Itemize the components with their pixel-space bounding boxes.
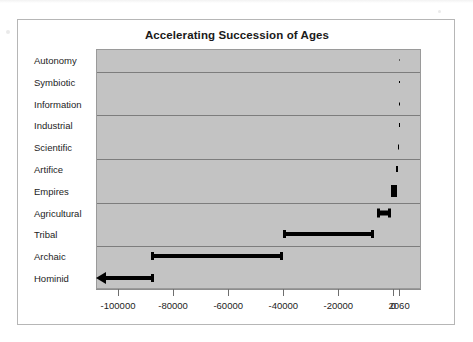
x-axis-tick xyxy=(118,289,119,296)
x-axis-tick xyxy=(283,289,284,296)
category-label: Tribal xyxy=(18,229,90,240)
gridline xyxy=(97,115,420,116)
category-label: Information xyxy=(18,98,90,109)
x-axis-tick xyxy=(393,289,394,296)
category-label: Empires xyxy=(18,185,90,196)
category-label: Archaic xyxy=(18,251,90,262)
bar-span xyxy=(399,59,400,60)
gridline xyxy=(97,203,420,204)
bar-arrowhead-icon xyxy=(96,272,106,284)
bar-cap-end xyxy=(371,230,374,238)
x-axis-tick xyxy=(399,289,400,296)
chart-frame: Accelerating Succession of Ages Autonomy… xyxy=(17,19,455,325)
bar-span xyxy=(106,276,154,280)
category-label: Symbiotic xyxy=(18,76,90,87)
bar-cap-end xyxy=(151,274,154,282)
bar-span xyxy=(398,145,399,150)
gridline xyxy=(97,72,420,73)
bar-cap-end xyxy=(388,208,391,217)
bar-cap-start xyxy=(151,252,154,260)
bar-span xyxy=(399,123,400,127)
category-axis: AutonomySymbioticInformationIndustrialSc… xyxy=(18,49,94,289)
x-axis-tick-label: -60000 xyxy=(213,300,243,311)
bar-cap-start xyxy=(283,230,286,238)
bar-span xyxy=(396,166,398,172)
x-axis-tick xyxy=(173,289,174,296)
category-label: Autonomy xyxy=(18,54,90,65)
category-label: Industrial xyxy=(18,120,90,131)
bar-span xyxy=(151,254,283,258)
x-axis-tick-label: -40000 xyxy=(268,300,298,311)
x-axis-tick xyxy=(228,289,229,296)
x-axis-line xyxy=(96,289,421,290)
bar-span xyxy=(283,232,374,236)
bar-span xyxy=(399,81,400,83)
plot-area xyxy=(96,49,421,289)
bar-cap-end xyxy=(394,185,397,197)
x-axis-tick xyxy=(338,289,339,296)
category-label: Artifice xyxy=(18,164,90,175)
x-axis-tick-label: -100000 xyxy=(101,300,136,311)
chart-title: Accelerating Succession of Ages xyxy=(18,29,456,41)
x-axis-tick-label: -20000 xyxy=(324,300,354,311)
scan-speckle xyxy=(6,30,10,34)
gridline xyxy=(97,159,420,160)
category-label: Scientific xyxy=(18,142,90,153)
x-axis-tick-label: 2060 xyxy=(389,300,410,311)
category-label: Agricultural xyxy=(18,207,90,218)
x-axis-tick-label: -80000 xyxy=(158,300,188,311)
bar-cap-start xyxy=(377,208,380,217)
bar-span xyxy=(399,102,400,105)
scan-artifact-top xyxy=(0,0,473,3)
gridline xyxy=(97,246,420,247)
bar-cap-end xyxy=(280,252,283,260)
category-label: Hominid xyxy=(18,273,90,284)
scan-speckle xyxy=(438,10,441,13)
